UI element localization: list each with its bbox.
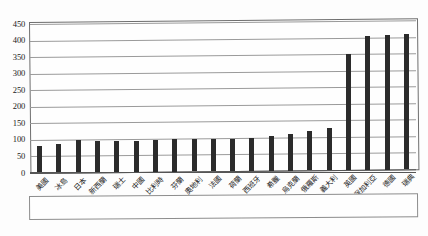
bar <box>76 140 81 172</box>
x-axis-line <box>30 172 416 173</box>
bar <box>249 138 254 171</box>
bar <box>56 144 61 172</box>
x-tick-label: 美國 <box>35 177 50 193</box>
y-tick-label: 350 <box>13 53 25 62</box>
x-tick-label: 德國 <box>382 174 397 190</box>
x-tick-label: 比利時 <box>145 176 165 197</box>
bar <box>269 136 274 171</box>
bar-chart-figure: 050100150200250300350400450 美國冰島日本新西蘭瑞士中… <box>0 0 428 236</box>
bar <box>230 139 235 171</box>
y-tick-label: 400 <box>13 36 25 45</box>
bar <box>95 141 100 172</box>
y-tick-label: 200 <box>13 102 25 111</box>
x-tick-label: 瑞士 <box>112 176 127 192</box>
y-tick-label: 300 <box>13 69 25 78</box>
bar <box>37 146 42 173</box>
x-tick-label: 俄羅斯 <box>300 174 320 195</box>
x-tick-label: 法國 <box>208 175 223 191</box>
legend-strip <box>29 193 418 220</box>
y-tick-label: 0 <box>21 169 25 178</box>
x-tick-label: 新西蘭 <box>88 176 108 197</box>
bar <box>288 134 293 170</box>
bar-series <box>30 24 416 173</box>
bar <box>346 54 351 170</box>
y-tick-label: 250 <box>13 86 25 95</box>
x-tick-label: 英國 <box>343 174 358 190</box>
x-tick-label: 冰島 <box>54 177 69 193</box>
y-tick-label: 450 <box>13 20 25 29</box>
bar <box>172 139 177 172</box>
bar <box>192 139 197 171</box>
x-tick-label: 烏克蘭 <box>281 175 301 196</box>
bar <box>327 128 332 170</box>
plot-area <box>30 24 416 173</box>
y-tick-label: 100 <box>13 135 25 144</box>
y-tick-label: 50 <box>17 152 25 161</box>
x-tick-label: 希臘 <box>266 175 281 191</box>
x-tick-label: 奧地利 <box>184 176 204 197</box>
bar <box>365 36 370 170</box>
x-tick-label: 西班牙 <box>242 175 262 196</box>
x-tick-label: 義大利 <box>319 174 339 195</box>
bar <box>307 131 312 170</box>
y-tick-label: 150 <box>13 119 25 128</box>
bar <box>404 34 409 169</box>
bar <box>153 140 158 172</box>
x-tick-label: 芬蘭 <box>170 176 185 192</box>
bar <box>134 141 139 172</box>
bar <box>211 139 216 171</box>
bar <box>114 141 119 172</box>
y-axis-tick-labels: 050100150200250300350400450 <box>0 22 29 174</box>
x-tick-label: 瑞典 <box>401 173 416 189</box>
bar <box>385 35 390 170</box>
